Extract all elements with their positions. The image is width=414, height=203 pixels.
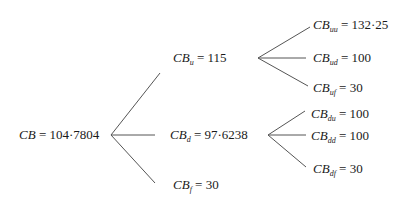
edge-u-uu <box>258 27 310 58</box>
node-uu: CBuu = 132·25 <box>313 17 388 38</box>
edge-d-du <box>268 111 305 135</box>
edge-d-df <box>268 135 306 167</box>
node-u: CBu = 115 <box>173 50 227 71</box>
edge-root-u <box>111 73 160 135</box>
edge-root-f <box>111 135 155 183</box>
node-root: CB = 104·7804 <box>19 127 99 143</box>
node-du: CBdu = 100 <box>311 106 369 127</box>
node-d: CBd = 97·6238 <box>170 127 248 148</box>
node-uf: CBuf = 30 <box>313 80 363 101</box>
node-f: CBf = 30 <box>173 177 219 198</box>
node-dd: CBdd = 100 <box>311 128 369 149</box>
edge-u-uf <box>258 58 308 86</box>
node-df: CBdf = 30 <box>313 161 363 182</box>
node-ud: CBud = 100 <box>313 50 371 71</box>
